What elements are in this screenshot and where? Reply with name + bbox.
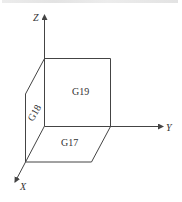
- x-axis-label: X: [19, 181, 27, 192]
- x-axis: [15, 126, 45, 182]
- g19-label: G19: [72, 86, 89, 97]
- g18-label: G18: [25, 103, 43, 123]
- coordinate-plane-diagram: Z Y X G19 G17 G18: [0, 0, 182, 202]
- g17-label: G17: [61, 137, 78, 148]
- y-axis-label: Y: [166, 122, 173, 133]
- z-axis-label: Z: [33, 12, 39, 23]
